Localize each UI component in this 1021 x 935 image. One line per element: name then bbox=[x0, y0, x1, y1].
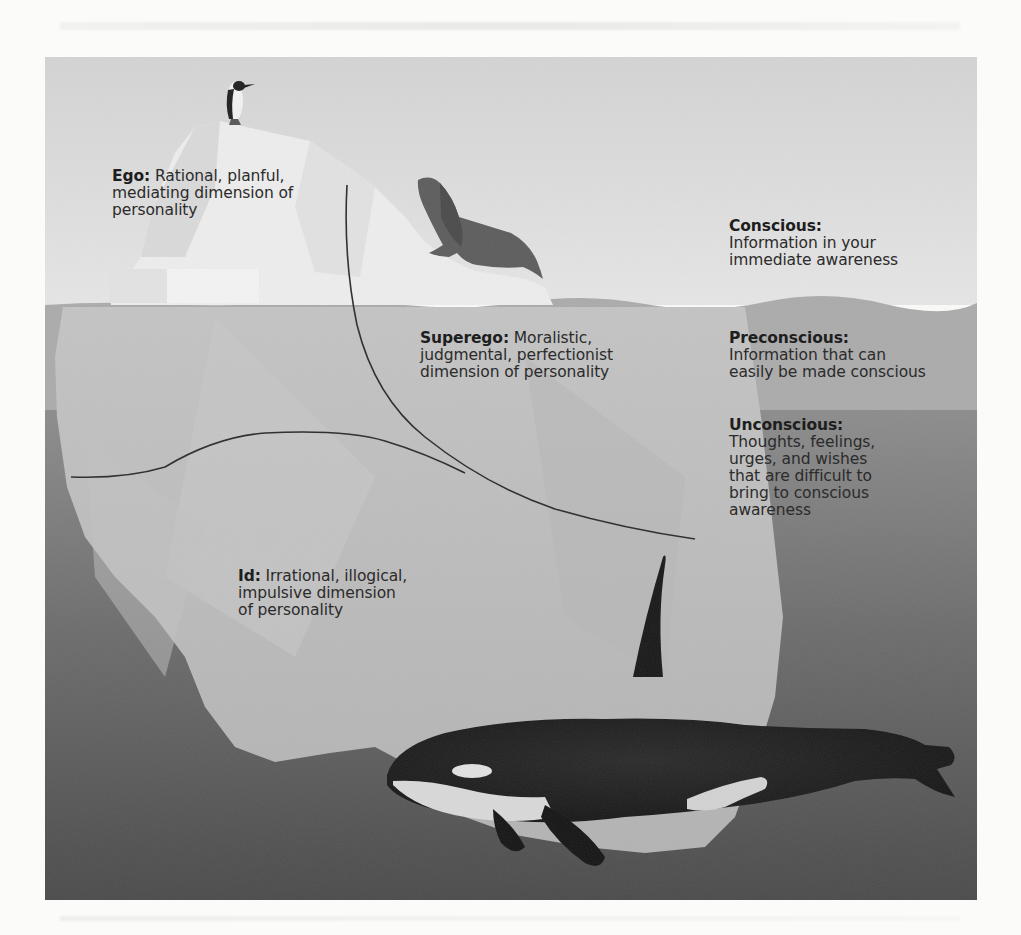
ego-line-2: mediating dimension of bbox=[112, 185, 352, 202]
id-line-2: impulsive dimension bbox=[238, 585, 458, 602]
superego-line-1: Moralistic, bbox=[514, 329, 592, 347]
unconscious-line-5: awareness bbox=[729, 502, 959, 519]
unconscious-term: Unconscious: bbox=[729, 417, 959, 434]
preconscious-line-2: easily be made conscious bbox=[729, 364, 969, 381]
ego-term: Ego: bbox=[112, 167, 150, 185]
ego-line-1: Rational, planful, bbox=[155, 167, 284, 185]
conscious-label: Conscious: Information in your immediate… bbox=[729, 218, 959, 269]
id-line-3: of personality bbox=[238, 602, 458, 619]
ego-label: Ego: Rational, planful, mediating dimens… bbox=[112, 168, 352, 219]
unconscious-line-1: Thoughts, feelings, bbox=[729, 434, 959, 451]
superego-label: Superego: Moralistic, judgmental, perfec… bbox=[420, 330, 680, 381]
unconscious-label: Unconscious: Thoughts, feelings, urges, … bbox=[729, 417, 959, 519]
bleed-through-text-top bbox=[60, 22, 960, 30]
unconscious-line-4: bring to conscious bbox=[729, 485, 959, 502]
conscious-line-1: Information in your bbox=[729, 235, 959, 252]
ego-line-3: personality bbox=[112, 202, 352, 219]
conscious-term: Conscious: bbox=[729, 218, 959, 235]
unconscious-line-2: urges, and wishes bbox=[729, 451, 959, 468]
preconscious-line-1: Information that can bbox=[729, 347, 969, 364]
id-line-1: Irrational, illogical, bbox=[266, 567, 408, 585]
bleed-through-text-bottom bbox=[60, 916, 960, 921]
superego-line-3: dimension of personality bbox=[420, 364, 680, 381]
superego-term: Superego: bbox=[420, 329, 509, 347]
preconscious-label: Preconscious: Information that can easil… bbox=[729, 330, 969, 381]
superego-line-2: judgmental, perfectionist bbox=[420, 347, 680, 364]
id-label: Id: Irrational, illogical, impulsive dim… bbox=[238, 568, 458, 619]
unconscious-line-3: that are difficult to bbox=[729, 468, 959, 485]
conscious-line-2: immediate awareness bbox=[729, 252, 959, 269]
id-term: Id: bbox=[238, 567, 261, 585]
iceberg-figure: Ego: Rational, planful, mediating dimens… bbox=[45, 57, 977, 900]
preconscious-term: Preconscious: bbox=[729, 330, 969, 347]
